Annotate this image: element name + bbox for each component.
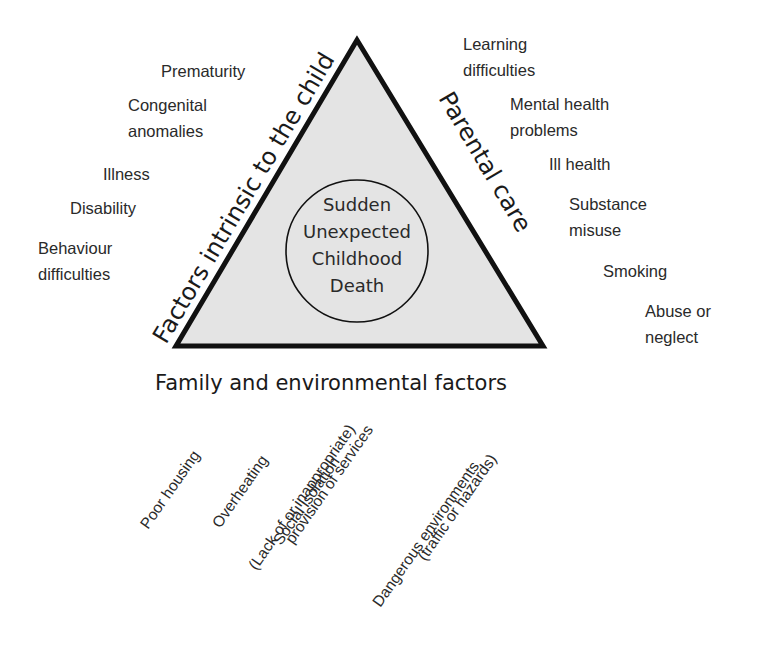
diagram-canvas: Sudden Unexpected Childhood Death Factor…: [0, 0, 758, 657]
left-factor-behaviour: Behaviour: [38, 239, 113, 257]
left-factor-prematurity: Prematurity: [161, 62, 246, 80]
bottom-factor-dangerous: (traffic or hazards): [414, 451, 500, 564]
right-factor-mental-health: Mental health: [510, 95, 609, 113]
bottom-factor-services: (Lack of or inappropriate): [245, 421, 358, 573]
bottom-factor-poor-housing: Poor housing: [137, 447, 203, 532]
right-factor-substance: Substance: [569, 195, 647, 213]
bottom-factors: Poor housing Overheating Social isolatio…: [137, 421, 500, 610]
left-factor-congenital: Congenital: [128, 96, 207, 114]
bottom-factor-overheating: Overheating: [209, 452, 271, 531]
right-factor-smoking: Smoking: [603, 262, 667, 280]
center-line: Childhood: [312, 248, 402, 269]
right-factor-ill-health: Ill health: [549, 155, 610, 173]
center-line: Unexpected: [303, 221, 411, 242]
left-factor-congenital: anomalies: [128, 122, 203, 140]
right-factor-mental-health: problems: [510, 121, 578, 139]
left-factor-behaviour: difficulties: [38, 265, 110, 283]
right-factor-abuse: neglect: [645, 328, 699, 346]
right-factor-learning: Learning: [463, 35, 527, 53]
right-factor-learning: difficulties: [463, 61, 535, 79]
right-factor-substance: misuse: [569, 221, 621, 239]
left-factor-disability: Disability: [70, 199, 137, 217]
bottom-factor-services: provision of services: [282, 422, 377, 547]
side-label-bottom: Family and environmental factors: [155, 371, 507, 395]
center-line: Death: [330, 275, 384, 296]
center-line: Sudden: [323, 194, 391, 215]
left-factor-illness: Illness: [103, 165, 150, 183]
right-factor-abuse: Abuse or: [645, 302, 712, 320]
